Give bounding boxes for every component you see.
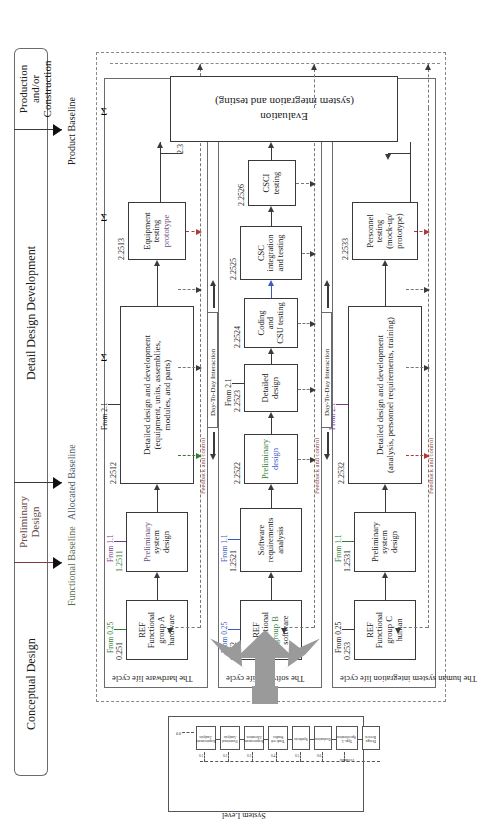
box-software-preliminary-design[interactable]: Preliminary design — [244, 434, 298, 484]
id-hardware-preliminary: 1.2511 — [115, 550, 124, 572]
box-software-coding-csu-testing[interactable]: Coding and CSU testing — [244, 298, 298, 348]
id-software-csc: 2.2525 — [229, 258, 238, 280]
dtd-arrow-line-2 — [213, 286, 215, 308]
id-hardware-testing: 2.2513 — [117, 238, 126, 260]
dtd-arrowhead-left-2 — [324, 454, 330, 460]
arrow-sw-ref-to-sra — [268, 572, 274, 578]
id-hardware-ref: 0.251 — [115, 642, 124, 660]
from-stem-hardware-ref — [114, 629, 126, 630]
baseline-marker-functional — [53, 557, 62, 569]
box-software-csci-testing[interactable]: CSCI testing — [248, 160, 296, 206]
lane-label-human: The human system integration life cycle — [340, 674, 477, 684]
inset-step-6-text: Type A Specification — [337, 734, 357, 742]
inset-conn-6 — [358, 739, 362, 740]
box-software-csc-integration[interactable]: CSC integration and testing — [240, 226, 302, 280]
inset-step-functional-analysis[interactable]: FunctionalAnalysis — [220, 726, 240, 750]
box-evaluation-text: Evaluation (system integration and testi… — [215, 94, 354, 125]
day-to-day-label-hw-sw: Day-To-Day Interaction — [209, 349, 217, 416]
conn-hw-detail-to-testing — [157, 266, 158, 306]
feedback-bus-human-left-riser — [398, 627, 428, 628]
box-human-ref[interactable]: REF Functional group C human — [354, 600, 416, 660]
inset-step-3-id: 0.4 — [271, 754, 275, 758]
conn-sw-sra-to-prelim — [271, 490, 272, 508]
feedback-tap-arrow-sw-2 — [310, 388, 316, 394]
phase-bar-left-cap — [14, 768, 48, 776]
inset-step-1-text: FunctionalAnalysis — [222, 734, 237, 742]
box-human-detail-text: Detailed design and development (analysi… — [375, 317, 395, 473]
box-software-requirements-analysis[interactable]: Software requirements analysis — [240, 508, 302, 572]
phase-label-production-text: Production and/or Construction — [17, 61, 53, 118]
arrow-sw-coding-to-csc — [268, 280, 274, 286]
feedback-tap-arrow-hu-3 — [424, 288, 430, 294]
inset-step-0-text: RequirementsAnalysis — [196, 734, 216, 742]
box-human-prelim-text: Preliminary system design — [371, 522, 400, 562]
eval-output-arrow-hw — [197, 64, 203, 70]
phase-divider-3 — [14, 129, 48, 130]
inset-step-requirements-analysis[interactable]: RequirementsAnalysis — [196, 726, 216, 750]
sigma-symbol-hardware: Σ — [101, 211, 107, 223]
box-human-personnel-testing[interactable]: Personnel testing (mock-up/ prototype) — [352, 202, 418, 260]
conn-hw-ref-to-prelim — [157, 578, 158, 600]
conn-eval-stem-top — [160, 153, 182, 154]
id-software-prelim: 2.2522 — [233, 462, 242, 484]
fan-arrow-stem — [252, 686, 278, 704]
box-software-detailed-text: Detailed design — [261, 374, 280, 403]
inset-step-0-id: 0.1 — [199, 754, 203, 758]
feedback-arrow-human-ref — [395, 628, 401, 634]
arrow-sw-csc-to-csci — [268, 206, 274, 212]
conn-eval-stem-bottom-h — [410, 142, 411, 154]
box-software-detailed-design[interactable]: Detailed design — [244, 364, 298, 412]
fan-arrow-group — [200, 606, 330, 716]
arrow-hu-detail-to-testing — [382, 260, 388, 266]
box-hardware-equipment-testing[interactable]: Equipment testing prototype — [128, 202, 186, 260]
inset-step-synthesis[interactable]: Synthesis — [292, 726, 310, 750]
baseline-label-product: Product Baseline — [66, 97, 77, 165]
feedback-tap-arrow-hu-2 — [424, 366, 430, 372]
box-hardware-detail-text: Detailed design and development (equipme… — [142, 335, 172, 455]
dtd-arrow-line-3 — [327, 432, 329, 454]
feedback-tap-arrow-hw-4 — [196, 230, 202, 236]
box-hardware-detailed-design[interactable]: Detailed design and development (equipme… — [120, 306, 194, 484]
conn-eval-stem-bottom — [388, 153, 410, 154]
inset-step-4-text: Synthesis — [294, 736, 308, 740]
box-human-detailed-design[interactable]: Detailed design and development (analysi… — [348, 306, 422, 484]
conn-sw-csc-to-csci — [271, 212, 272, 226]
sigma-symbol-software: Σ — [101, 105, 107, 117]
conn-sw-csci-to-eval — [271, 146, 272, 160]
conn-hw-testing-to-eval — [160, 154, 161, 202]
inset-step-evaluation[interactable]: Evaluation — [314, 726, 332, 750]
dtd-arrowhead-left-1 — [210, 454, 216, 460]
eval-output-hu — [428, 64, 429, 108]
inset-entry-dash — [182, 732, 194, 733]
box-evaluation[interactable]: Evaluation (system integration and testi… — [170, 76, 398, 142]
box-software-prelim-text: Preliminary design — [261, 439, 280, 479]
id-human-detail: 2.2532 — [337, 462, 346, 484]
inset-step-7-text: Design Review — [363, 734, 379, 742]
feedback-arrow-hardware-ref — [167, 628, 173, 634]
feedback-tap-arrow-sw-4 — [310, 252, 316, 258]
box-hardware-ref[interactable]: REF Functional group A hardware — [126, 600, 188, 660]
id-hardware-detail: 2.2512 — [109, 462, 118, 484]
inset-conn-4 — [310, 739, 314, 740]
id-software-coding: 2.2524 — [233, 326, 242, 348]
inset-conn-0 — [216, 739, 220, 740]
inset-step-requirements-allocation[interactable]: RequirementsAllocation — [244, 726, 264, 750]
lane-label-hardware: The hardware life cycle — [112, 674, 192, 684]
box-hardware-testing-text: Equipment testing prototype — [143, 212, 172, 249]
box-hardware-preliminary-system-design[interactable]: Preliminary system design — [126, 512, 188, 572]
inset-step-type-a-specification[interactable]: Type A Specification — [336, 726, 358, 750]
box-software-sra-text: Software requirements analysis — [257, 518, 286, 562]
box-software-csc-text: CSC integration and testing — [257, 234, 286, 271]
inset-step-tradeoff-studies[interactable]: Trade-offStudies — [268, 726, 288, 750]
inset-feedback-tap-4 — [300, 752, 301, 762]
inset-step-design-review[interactable]: Design Review — [362, 726, 380, 750]
box-human-preliminary-system-design[interactable]: Preliminary system design — [354, 512, 416, 572]
inset-conn-5 — [332, 739, 336, 740]
baseline-label-allocated: Allocated Baseline — [66, 444, 77, 520]
inset-feedback-tap-1 — [228, 752, 229, 762]
feedback-tap-arrow-hu-1 — [424, 454, 430, 460]
conn-hu-testing-to-eval — [410, 154, 411, 202]
id-software-sra: 1.2521 — [229, 550, 238, 572]
fan-arrow-center — [236, 630, 294, 694]
